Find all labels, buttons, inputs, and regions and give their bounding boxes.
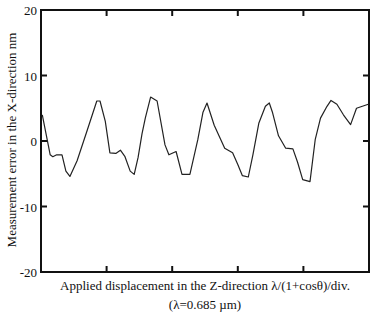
x-axis-label-sub: (λ=0.685 µm): [41, 295, 369, 314]
y-tick-label: 20: [24, 3, 37, 18]
plot-frame: [41, 10, 369, 272]
y-tick-label: 10: [24, 69, 37, 84]
x-axis-label-block: Applied displacement in the Z-direction …: [41, 276, 369, 314]
y-tick-label: -10: [20, 200, 37, 215]
y-axis-tick-labels: -20-1001020: [20, 3, 37, 280]
y-tick-label: -20: [20, 265, 37, 280]
measurement-error-line: [42, 97, 368, 182]
y-axis-label: Measurement error in the X-direction nm: [4, 10, 20, 270]
line-chart: -20-1001020: [0, 0, 370, 319]
x-axis-ticks: [107, 10, 304, 272]
x-axis-label: Applied displacement in the Z-direction …: [41, 276, 369, 295]
y-axis-ticks: [41, 76, 369, 207]
y-tick-label: 0: [31, 134, 38, 149]
plot-border: [41, 10, 369, 272]
